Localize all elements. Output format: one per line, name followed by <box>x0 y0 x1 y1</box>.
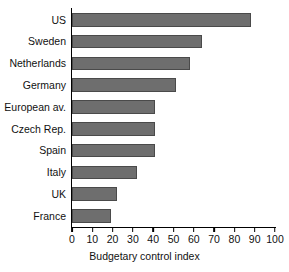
x-axis-ticks: 0102030405060708090100 <box>72 228 275 246</box>
bar-row <box>72 118 275 140</box>
x-tick-mark <box>274 228 275 232</box>
bar-row <box>72 140 275 162</box>
bar <box>72 209 111 223</box>
bar-rows <box>72 9 275 227</box>
x-tick-label: 30 <box>127 233 139 245</box>
bar-chart: USSwedenNetherlandsGermanyEuropean av.Cz… <box>0 0 289 272</box>
x-tick: 10 <box>86 228 98 245</box>
bar <box>72 144 155 158</box>
x-tick-label: 70 <box>208 233 220 245</box>
bar-row <box>72 9 275 31</box>
bar <box>72 57 190 71</box>
x-tick-label: 10 <box>86 233 98 245</box>
category-label: France <box>0 205 66 227</box>
category-label: Italy <box>0 162 66 184</box>
x-tick-mark <box>234 228 235 232</box>
x-tick: 40 <box>147 228 159 245</box>
x-tick: 90 <box>249 228 261 245</box>
bar <box>72 187 117 201</box>
category-label: Czech Rep. <box>0 118 66 140</box>
x-tick-mark <box>214 228 215 232</box>
x-tick-label: 80 <box>229 233 241 245</box>
category-label: UK <box>0 183 66 205</box>
x-tick-mark <box>173 228 174 232</box>
x-tick-label: 90 <box>249 233 261 245</box>
bar <box>72 166 137 180</box>
x-tick-mark <box>132 228 133 232</box>
x-tick-label: 0 <box>69 233 75 245</box>
bar-row <box>72 96 275 118</box>
x-tick: 80 <box>229 228 241 245</box>
x-tick: 0 <box>69 228 75 245</box>
x-tick: 20 <box>107 228 119 245</box>
x-tick-mark <box>254 228 255 232</box>
bar-row <box>72 74 275 96</box>
bar-row <box>72 31 275 53</box>
x-tick-mark <box>71 228 72 232</box>
x-tick-mark <box>153 228 154 232</box>
x-tick: 50 <box>168 228 180 245</box>
category-label: Germany <box>0 74 66 96</box>
bar <box>72 78 176 92</box>
category-axis-labels: USSwedenNetherlandsGermanyEuropean av.Cz… <box>0 9 66 227</box>
bar <box>72 13 251 27</box>
category-label: Sweden <box>0 31 66 53</box>
x-tick-label: 20 <box>107 233 119 245</box>
x-tick: 100 <box>266 228 284 245</box>
x-tick-label: 50 <box>168 233 180 245</box>
x-tick-label: 40 <box>147 233 159 245</box>
category-label: US <box>0 9 66 31</box>
x-axis-title: Budgetary control index <box>0 250 289 262</box>
x-tick: 60 <box>188 228 200 245</box>
x-tick-mark <box>112 228 113 232</box>
x-tick-mark <box>92 228 93 232</box>
category-label: Netherlands <box>0 53 66 75</box>
x-tick: 70 <box>208 228 220 245</box>
x-tick-mark <box>193 228 194 232</box>
category-label: European av. <box>0 96 66 118</box>
bar-row <box>72 205 275 227</box>
bar-row <box>72 183 275 205</box>
bar <box>72 35 202 49</box>
x-tick-label: 100 <box>266 233 284 245</box>
plot-area <box>72 9 275 227</box>
category-label: Spain <box>0 140 66 162</box>
bar-row <box>72 53 275 75</box>
bar <box>72 122 155 136</box>
bar <box>72 100 155 114</box>
bar-row <box>72 162 275 184</box>
x-tick-label: 60 <box>188 233 200 245</box>
x-tick: 30 <box>127 228 139 245</box>
